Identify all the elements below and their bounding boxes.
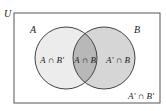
region-b-only-label: A′ ∩ B: [105, 55, 130, 65]
region-intersection-label: A ∩ B: [73, 55, 96, 65]
region-neither-label: A′ ∩ B′: [127, 91, 155, 101]
universe-label: U: [4, 8, 12, 19]
set-b-label: B: [134, 24, 140, 35]
venn-diagram: U A B A ∩ B′ A ∩ B A′ ∩ B A′ ∩ B′: [0, 0, 166, 111]
region-a-only-label: A ∩ B′: [39, 55, 65, 65]
set-a-label: A: [29, 24, 37, 35]
